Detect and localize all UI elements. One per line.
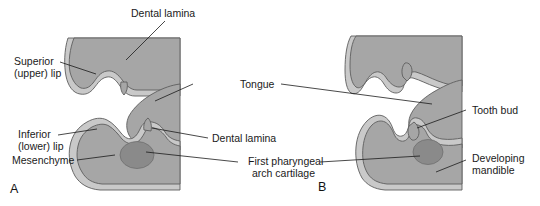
label-inferior-lip-line2: (lower) lip: [18, 140, 64, 153]
label-first-arch-line2: arch cartilage: [252, 167, 315, 180]
first-arch-cartilage-b: [413, 140, 443, 165]
label-superior-lip-line2: (upper) lip: [14, 67, 61, 80]
panel-a-artwork: [65, 38, 180, 190]
panel-letter-a: A: [10, 182, 18, 196]
label-developing-mandible-line2: mandible: [472, 164, 515, 177]
label-tongue: Tongue: [240, 78, 274, 91]
panel-letter-b: B: [318, 180, 326, 194]
label-dental-lamina-mid: Dental lamina: [212, 132, 276, 145]
label-dental-lamina-top: Dental lamina: [131, 7, 195, 20]
label-inferior-lip-line1: Inferior: [18, 128, 51, 141]
label-first-arch-line1: First pharyngeal: [248, 155, 323, 168]
label-developing-mandible-line1: Developing: [472, 152, 525, 165]
label-tooth-bud: Tooth bud: [472, 104, 518, 117]
label-mesenchyme: Mesenchyme: [12, 154, 74, 167]
panel-b-artwork: [345, 36, 462, 190]
figure-container: Dental lamina Superior (upper) lip Infer…: [0, 0, 540, 206]
first-arch-cartilage-a: [120, 142, 154, 169]
label-superior-lip-line1: Superior: [14, 55, 54, 68]
